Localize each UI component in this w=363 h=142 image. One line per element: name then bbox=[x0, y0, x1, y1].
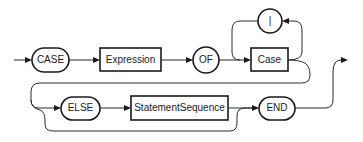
arrow-icon bbox=[186, 57, 193, 63]
arrow-icon bbox=[25, 57, 32, 63]
terminal-else-label: ELSE bbox=[68, 102, 94, 113]
terminal-else: ELSE bbox=[61, 97, 100, 120]
arrow-icon bbox=[244, 57, 251, 63]
terminal-case: CASE bbox=[32, 48, 69, 72]
exit-connector bbox=[295, 60, 345, 108]
terminal-end: END bbox=[259, 97, 295, 120]
terminal-case-label: CASE bbox=[37, 54, 65, 65]
nonterminal-expression-label: Expression bbox=[106, 54, 155, 65]
arrow-icon bbox=[93, 57, 100, 63]
terminal-of: OF bbox=[193, 47, 219, 73]
arrow-icon bbox=[124, 105, 131, 111]
arrow-icon bbox=[54, 105, 61, 111]
terminal-bar-label: | bbox=[269, 15, 272, 26]
nonterminal-case: Case bbox=[251, 48, 288, 71]
terminal-end-label: END bbox=[266, 102, 287, 113]
arrow-icon bbox=[341, 57, 348, 63]
arrow-icon bbox=[282, 18, 289, 24]
case-syntax-diagram: CASE Expression OF | Case ELSE bbox=[0, 0, 363, 142]
terminal-bar: | bbox=[258, 9, 282, 33]
terminal-of-label: OF bbox=[199, 54, 213, 65]
nonterminal-statement-sequence: StatementSequence bbox=[131, 96, 228, 120]
nonterminal-expression: Expression bbox=[100, 48, 161, 71]
nonterminal-statement-sequence-label: StatementSequence bbox=[134, 102, 225, 113]
nonterminal-case-label: Case bbox=[258, 54, 282, 65]
arrow-icon bbox=[252, 105, 259, 111]
